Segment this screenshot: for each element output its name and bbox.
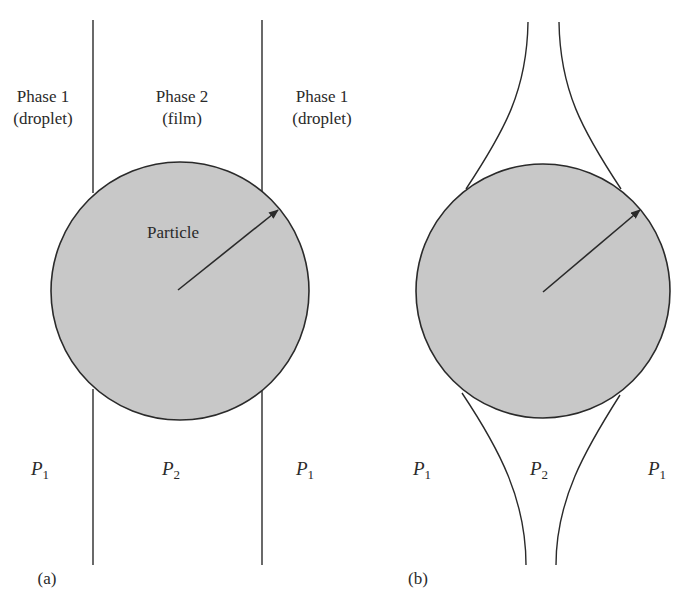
panel-b-caption: (b) [408,569,428,588]
meniscus-bottom-right [556,395,620,565]
region-label-right-line1: Phase 1 [296,87,348,106]
panel-a: Particle Phase 1 (droplet) Phase 2 (film… [13,20,351,588]
pressure-label-a-left: P1 [30,458,49,482]
region-label-middle-line1: Phase 2 [156,87,208,106]
region-label-left-line2: (droplet) [13,109,72,128]
region-label-right-line2: (droplet) [292,109,351,128]
meniscus-top-left [466,22,528,189]
particle-circle-a [51,162,309,420]
particle-label: Particle [147,223,199,242]
pressure-label-a-middle: P2 [161,458,180,482]
pressure-label-b-left: P1 [412,458,431,482]
meniscus-bottom-left [462,393,526,565]
film-particle-diagram: Particle Phase 1 (droplet) Phase 2 (film… [0,0,681,604]
meniscus-top-right [559,22,621,189]
panel-b: P1 P2 P1 (b) [408,22,670,588]
pressure-label-a-right: P1 [295,458,314,482]
region-label-left-line1: Phase 1 [17,87,69,106]
pressure-label-b-right: P1 [647,458,666,482]
panel-a-caption: (a) [38,569,57,588]
pressure-label-b-middle: P2 [529,458,548,482]
region-label-middle-line2: (film) [162,109,202,128]
